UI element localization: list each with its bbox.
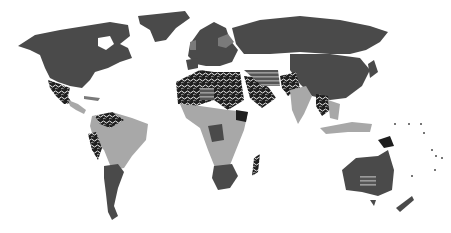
region-argentina-chile: [104, 164, 124, 220]
region-australia: [342, 150, 394, 196]
region-ethiopia: [236, 110, 248, 122]
region-iberia: [186, 58, 198, 70]
region-russia: [232, 16, 388, 54]
region-indonesia: [320, 122, 372, 134]
region-caribbean: [84, 96, 100, 101]
region-north-africa-central: [200, 88, 214, 100]
region-greenland: [138, 11, 190, 42]
region-madagascar: [252, 154, 260, 176]
region-japan: [368, 60, 378, 78]
region-india: [290, 86, 312, 124]
region-uk: [190, 40, 196, 50]
pacific-islands: [394, 123, 443, 177]
region-southern-africa: [212, 164, 238, 190]
region-north-america: [18, 22, 132, 88]
region-australia-center: [360, 176, 376, 186]
region-papua: [378, 136, 394, 148]
region-egypt-sudan: [214, 72, 244, 110]
region-tasmania: [370, 200, 376, 206]
region-southeast-asia: [316, 94, 330, 116]
world-map: [0, 0, 451, 233]
region-central-america: [68, 100, 86, 114]
world-map-svg: [0, 0, 451, 233]
region-indochina: [328, 100, 340, 120]
region-new-zealand: [396, 196, 414, 212]
